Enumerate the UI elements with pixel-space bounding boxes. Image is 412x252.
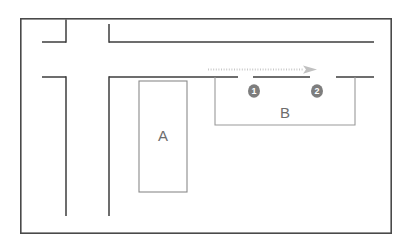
parking-area-b-label: B <box>280 104 290 121</box>
marker-2[interactable]: 2 <box>311 84 323 98</box>
diagram-canvas: A B 1 2 <box>0 0 412 252</box>
marker-1-label: 1 <box>251 86 256 96</box>
street-map-diagram: A B 1 2 <box>0 0 412 252</box>
building-a-label: A <box>158 127 168 144</box>
diagram-background <box>0 0 412 252</box>
marker-1[interactable]: 1 <box>248 84 260 98</box>
marker-2-label: 2 <box>314 86 319 96</box>
